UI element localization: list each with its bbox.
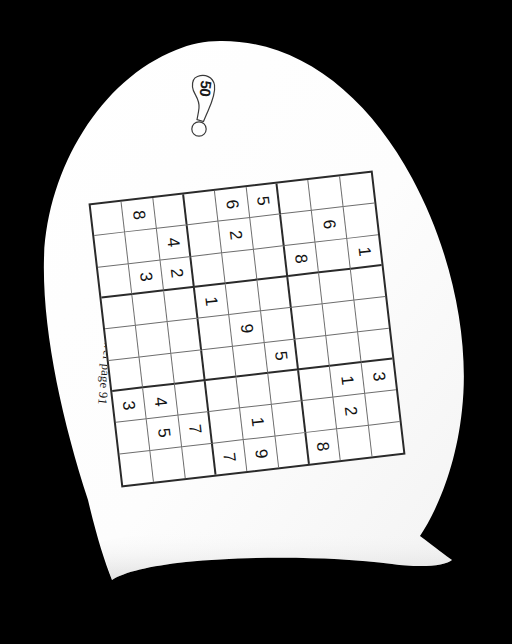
sudoku-cell-r1c2[interactable]: 8 [122,198,157,233]
sudoku-cell-r6c2[interactable] [140,354,175,389]
sudoku-cell-r5c4[interactable] [199,315,234,350]
sudoku-cell-r1c3[interactable] [153,194,188,229]
sudoku-cell-r4c5[interactable] [226,281,261,316]
sudoku-cell-r9c5[interactable]: 9 [244,436,279,471]
sudoku-cell-r4c4[interactable]: 1 [195,284,230,319]
sudoku-cell-r5c6[interactable] [261,308,296,343]
sudoku-cell-r3c6[interactable] [254,246,289,281]
sudoku-cell-r5c8[interactable] [323,301,358,336]
sudoku-cell-r5c9[interactable] [354,297,389,332]
sudoku-cell-value: 7 [221,451,239,462]
sudoku-cell-r7c9[interactable]: 3 [361,359,396,394]
sudoku-cell-value: 3 [370,371,388,382]
puzzle-page-photo: 50 Answer page 91 8654263281195341357127… [0,0,512,644]
sudoku-cell-r1c9[interactable] [340,173,375,208]
sudoku-cell-r2c1[interactable] [94,233,129,268]
sudoku-cell-value: 5 [254,195,272,206]
sudoku-cell-value: 8 [292,253,310,264]
sudoku-cell-r6c4[interactable] [202,346,237,381]
sudoku-cell-r3c1[interactable] [98,264,133,299]
sudoku-cell-value: 1 [355,246,373,257]
sudoku-cell-r7c3[interactable] [175,381,210,416]
sudoku-cell-r4c9[interactable] [351,266,386,301]
sudoku-cell-r7c5[interactable] [237,374,272,409]
sudoku-cell-value: 6 [223,198,241,209]
sudoku-cell-r3c9[interactable]: 1 [347,235,382,270]
sudoku-cell-r8c6[interactable] [272,401,307,436]
sudoku-cell-value: 6 [320,219,338,230]
sudoku-cell-r9c6[interactable] [275,433,310,468]
sudoku-cell-value: 2 [167,267,185,278]
sudoku-cell-r1c6[interactable]: 5 [246,184,281,219]
sudoku-cell-r1c7[interactable] [277,180,312,215]
sudoku-cell-r3c8[interactable] [316,239,351,274]
sudoku-cell-r6c3[interactable] [171,350,206,385]
sudoku-cell-r9c7[interactable]: 8 [306,429,341,464]
sudoku-grid[interactable]: 865426328119534135712798 [89,171,406,488]
sudoku-cell-value: 3 [137,271,155,282]
sudoku-cell-r8c2[interactable]: 5 [147,416,182,451]
sudoku-cell-r4c8[interactable] [319,270,354,305]
sudoku-cell-r7c4[interactable] [206,377,241,412]
sudoku-cell-value: 8 [130,209,148,220]
sudoku-cell-r5c3[interactable] [167,319,202,354]
sudoku-cell-r5c1[interactable] [105,326,140,361]
sudoku-cell-r2c9[interactable] [343,204,378,239]
sudoku-cell-r9c8[interactable] [337,425,372,460]
sudoku-cell-r8c1[interactable] [116,419,151,454]
sudoku-cell-r8c9[interactable] [365,391,400,426]
sudoku-cell-r5c2[interactable] [136,322,171,357]
sudoku-cell-r2c4[interactable] [188,222,223,257]
sudoku-cell-r8c3[interactable]: 7 [178,412,213,447]
sudoku-cell-value: 2 [227,229,245,240]
sudoku-cell-r8c8[interactable]: 2 [334,394,369,429]
sudoku-cell-r6c9[interactable] [358,328,393,363]
sudoku-cell-r4c1[interactable] [102,295,137,330]
sudoku-grid-container: 865426328119534135712798 [89,171,406,488]
sudoku-cell-r6c5[interactable] [233,343,268,378]
sudoku-cell-r4c2[interactable] [133,291,168,326]
sudoku-cell-r6c6[interactable]: 5 [264,339,299,374]
sudoku-cell-r1c5[interactable]: 6 [215,187,250,222]
sudoku-cell-r2c3[interactable]: 4 [157,225,192,260]
sudoku-cell-value: 2 [342,405,360,416]
sudoku-cell-r7c6[interactable] [268,370,303,405]
sudoku-cell-r7c7[interactable] [299,367,334,402]
sudoku-cell-r9c9[interactable] [369,422,404,457]
sudoku-cell-value: 1 [338,374,356,385]
sudoku-cell-r7c1[interactable]: 3 [112,388,147,423]
sudoku-cell-r1c8[interactable] [309,176,344,211]
sudoku-cell-r4c6[interactable] [257,277,292,312]
sudoku-cell-r3c7[interactable]: 8 [285,242,320,277]
sudoku-cell-r2c5[interactable]: 2 [219,218,254,253]
sudoku-cell-r3c5[interactable] [222,249,257,284]
sudoku-cell-r9c1[interactable] [120,451,155,486]
sudoku-cell-r4c7[interactable] [288,273,323,308]
sudoku-cell-r6c7[interactable] [295,336,330,371]
sudoku-cell-r6c8[interactable] [327,332,362,367]
puzzle-number-badge: 50 [183,72,229,138]
sudoku-cell-r4c3[interactable] [164,288,199,323]
sudoku-cell-r3c3[interactable]: 2 [160,257,195,292]
sudoku-cell-r5c7[interactable] [292,304,327,339]
sudoku-cell-r5c5[interactable]: 9 [230,312,265,347]
sudoku-cell-r1c4[interactable] [184,191,219,226]
sudoku-cell-r6c1[interactable] [109,357,144,392]
sudoku-cell-r9c2[interactable] [151,447,186,482]
sudoku-cell-r8c5[interactable]: 1 [240,405,275,440]
sudoku-cell-r7c8[interactable]: 1 [330,363,365,398]
sudoku-cell-r2c2[interactable] [125,229,160,264]
sudoku-cell-r8c4[interactable] [209,409,244,444]
sudoku-cell-r3c4[interactable] [191,253,226,288]
sudoku-cell-r3c2[interactable]: 3 [129,260,164,295]
sudoku-cell-r2c8[interactable]: 6 [312,207,347,242]
sudoku-cell-r9c4[interactable]: 7 [213,440,248,475]
sudoku-cell-r8c7[interactable] [303,398,338,433]
sudoku-cell-r2c7[interactable] [281,211,316,246]
sudoku-cell-value: 5 [155,427,173,438]
sudoku-cell-r2c6[interactable] [250,215,285,250]
sudoku-cell-value: 1 [203,295,221,306]
sudoku-cell-r7c2[interactable]: 4 [143,385,178,420]
sudoku-cell-r1c1[interactable] [91,202,126,237]
sudoku-cell-r9c3[interactable] [182,443,217,478]
